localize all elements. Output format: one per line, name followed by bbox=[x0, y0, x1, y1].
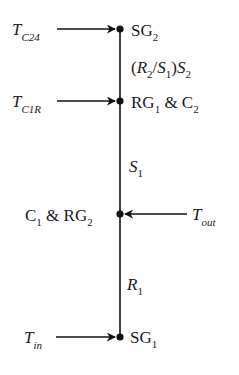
node-dot-c1-rg2 bbox=[116, 210, 123, 217]
node-dot-sg2 bbox=[116, 25, 123, 32]
node-dot-rg1-c2 bbox=[116, 97, 123, 104]
input-label-tc24: TC24 bbox=[12, 20, 40, 43]
edge-label-r2-s1-s2: (R2/S1)S2 bbox=[131, 58, 191, 80]
input-label-tout: Tout bbox=[192, 205, 216, 228]
node-label-rg1-c2: RG1 & C2 bbox=[131, 93, 199, 115]
edge-label-s1: S1 bbox=[129, 157, 143, 179]
node-label-sg1: SG1 bbox=[130, 328, 157, 350]
node-dot-sg1 bbox=[116, 333, 123, 340]
edge-label-r1: R1 bbox=[126, 275, 143, 297]
input-label-tc1r: TC1R bbox=[12, 92, 41, 115]
node-label-sg2: SG2 bbox=[131, 21, 158, 43]
diagram-canvas: TC24 TC1R Tout Tin SG2 RG1 & C2 C1 & RG2… bbox=[0, 0, 239, 375]
node-label-c1-rg2: C1 & RG2 bbox=[25, 206, 93, 228]
input-label-tin: Tin bbox=[24, 328, 43, 351]
